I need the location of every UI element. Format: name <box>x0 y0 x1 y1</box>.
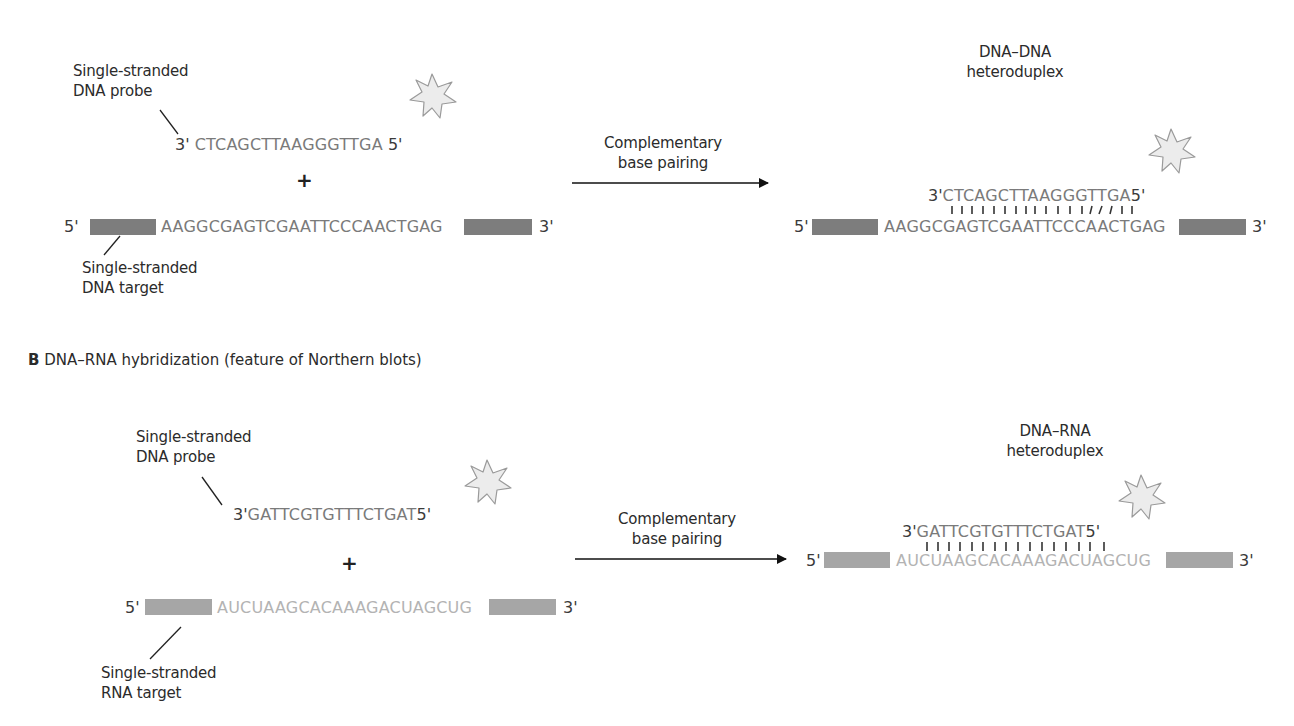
star-burst-icon <box>465 460 511 504</box>
target-sequence-b: AUCUAAGCACAAAGACUAGCUG <box>217 598 472 618</box>
flank-bar-left <box>824 552 890 568</box>
flank-bar-right <box>489 599 556 615</box>
target-leader-line-b <box>150 627 181 659</box>
probe-sequence-b: GATTCGTGTTTCTGAT <box>248 505 417 524</box>
probe-leader-line-b <box>202 477 222 505</box>
arrow-label-b: Complementary base pairing <box>592 509 762 549</box>
flank-bar-left <box>90 219 156 235</box>
flank-bar-right <box>1179 219 1246 235</box>
star-burst-icon <box>410 74 456 118</box>
target-label-a: Single-stranded DNA target <box>82 258 197 298</box>
arrow-label-a: Complementary base pairing <box>572 133 754 173</box>
section-b-title: B DNA–RNA hybridization (feature of Nort… <box>28 351 422 369</box>
plus-sign-b: + <box>341 551 358 575</box>
product-label-b: DNA–RNA heteroduplex <box>990 421 1120 461</box>
probe-sequence-a: CTCAGCTTAAGGGTTGA <box>195 135 383 154</box>
product-probe-strand-a: 3'CTCAGCTTAAGGGTTGA5' <box>928 186 1145 206</box>
product-probe-strand-b: 3'GATTCGTGTTTCTGAT5' <box>902 522 1100 542</box>
probe-label-b: Single-stranded DNA probe <box>136 427 251 467</box>
probe-label-a: Single-stranded DNA probe <box>73 61 188 101</box>
plus-sign-a: + <box>296 168 313 192</box>
star-burst-icon <box>1119 475 1165 519</box>
base-pair-ticks-b <box>927 542 1104 551</box>
product-label-a: DNA–DNA heteroduplex <box>930 42 1100 82</box>
flank-bar-left <box>812 219 878 235</box>
flank-bar-right <box>1166 552 1233 568</box>
probe-leader-line-a <box>160 110 178 134</box>
flank-bar-right <box>464 219 532 235</box>
target-leader-line-a <box>104 236 120 255</box>
flank-bar-left <box>145 599 212 615</box>
probe-strand-a: 3' CTCAGCTTAAGGGTTGA 5' <box>175 135 402 155</box>
base-pair-ticks-a <box>952 206 1132 214</box>
target-sequence-a: AAGGCGAGTCGAATTCCCAACTGAG <box>161 217 443 237</box>
target-label-b: Single-stranded RNA target <box>101 663 216 703</box>
probe-strand-b: 3'GATTCGTGTTTCTGAT5' <box>233 505 431 525</box>
star-burst-icon <box>1149 129 1195 173</box>
